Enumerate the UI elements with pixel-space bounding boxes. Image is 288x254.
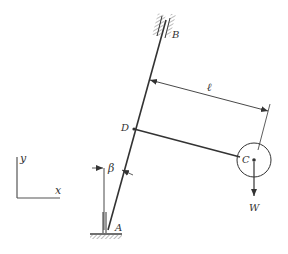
label-beta: β [107,162,114,175]
weight-arrow: W [249,162,260,213]
label-d: D [120,122,129,133]
label-a: A [114,222,122,233]
support-a: A [90,212,122,239]
coordinate-axes: y x [17,152,62,198]
arm-dc [134,129,240,157]
extension-line-c [258,104,270,150]
x-axis-label: x [55,184,62,197]
label-c: C [242,154,250,165]
y-axis-label: y [19,152,27,165]
label-b: B [171,29,179,40]
bar-ab [108,20,166,230]
label-w: W [249,202,260,213]
point-d [132,127,135,130]
mechanics-diagram: y x B β A D C W [0,0,288,254]
dimension-ell: ℓ [150,80,268,111]
label-ell: ℓ [207,81,212,94]
support-b: B [152,13,179,40]
